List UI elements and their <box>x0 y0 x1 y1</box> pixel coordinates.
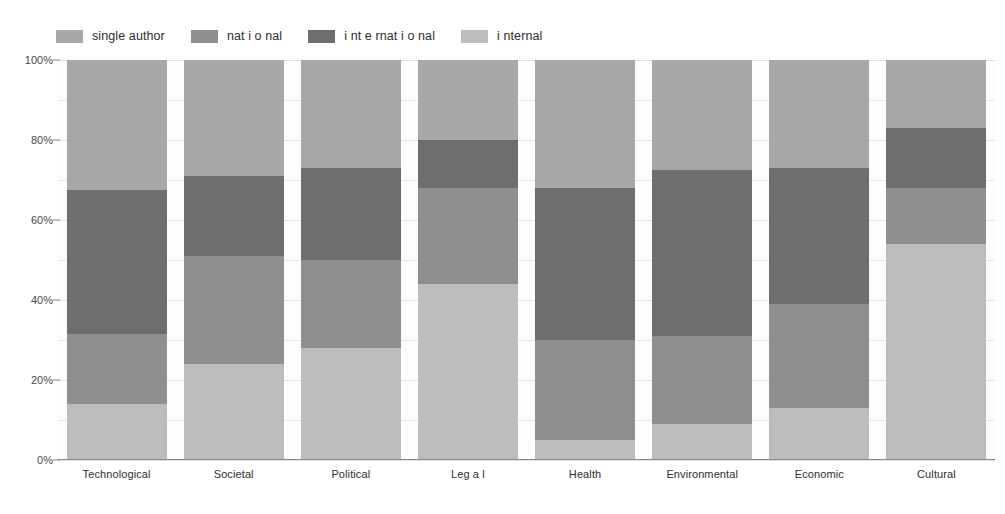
bar-segment-national[interactable] <box>418 188 518 284</box>
bar-segment-international[interactable] <box>769 168 869 304</box>
bar-segment-international[interactable] <box>301 168 401 260</box>
legend-item-international[interactable]: i nt e rnat i o nal <box>308 29 435 43</box>
bar-segment-single_author[interactable] <box>652 60 752 170</box>
bar-segment-national[interactable] <box>535 340 635 440</box>
bar-economic[interactable] <box>769 60 869 460</box>
legend-swatch-internal <box>461 30 488 43</box>
legend-item-internal[interactable]: i nternal <box>461 29 542 43</box>
legend-swatch-national <box>191 30 218 43</box>
y-tick-label-100pct: 100% <box>9 54 53 66</box>
x-axis-line <box>58 459 995 460</box>
bar-segment-single_author[interactable] <box>535 60 635 188</box>
bar-segment-internal[interactable] <box>418 284 518 460</box>
bar-segment-international[interactable] <box>652 170 752 336</box>
x-tick-label-political: Political <box>292 468 409 480</box>
stacked-bar-chart: single authornat i o nali nt e rnat i o … <box>0 0 1005 514</box>
y-tick-label-0pct: 0% <box>9 454 53 466</box>
y-tick-mark-0 <box>53 460 60 461</box>
bar-segment-national[interactable] <box>652 336 752 424</box>
y-tick-label-40pct: 40% <box>9 294 53 306</box>
x-tick-label-societal: Societal <box>175 468 292 480</box>
gridline-0 <box>58 460 995 461</box>
bar-segment-single_author[interactable] <box>418 60 518 140</box>
bar-segment-single_author[interactable] <box>67 60 167 190</box>
plot-area <box>58 60 995 460</box>
y-tick-label-20pct: 20% <box>9 374 53 386</box>
bar-segment-internal[interactable] <box>67 404 167 460</box>
bar-segment-internal[interactable] <box>886 244 986 460</box>
bar-segment-internal[interactable] <box>652 424 752 460</box>
legend-item-national[interactable]: nat i o nal <box>191 29 282 43</box>
legend-label-single_author: single author <box>92 29 165 43</box>
bar-segment-single_author[interactable] <box>886 60 986 128</box>
bar-segment-internal[interactable] <box>769 408 869 460</box>
bar-segment-national[interactable] <box>886 188 986 244</box>
bar-political[interactable] <box>301 60 401 460</box>
y-tick-mark-20 <box>53 380 60 381</box>
bar-segment-single_author[interactable] <box>769 60 869 168</box>
bar-segment-international[interactable] <box>535 188 635 340</box>
bar-health[interactable] <box>535 60 635 460</box>
legend-label-internal: i nternal <box>497 29 542 43</box>
legend-item-single_author[interactable]: single author <box>56 29 165 43</box>
bar-segment-internal[interactable] <box>535 440 635 460</box>
y-tick-mark-60 <box>53 220 60 221</box>
bar-cultural[interactable] <box>886 60 986 460</box>
bar-segment-internal[interactable] <box>184 364 284 460</box>
bar-segment-national[interactable] <box>301 260 401 348</box>
x-tick-label-leg-a-l: Leg a l <box>409 468 526 480</box>
bar-segment-national[interactable] <box>769 304 869 408</box>
legend-swatch-international <box>308 30 335 43</box>
bar-environmental[interactable] <box>652 60 752 460</box>
legend-label-national: nat i o nal <box>227 29 282 43</box>
legend-swatch-single_author <box>56 30 83 43</box>
bar-segment-internal[interactable] <box>301 348 401 460</box>
bar-leg-a-l[interactable] <box>418 60 518 460</box>
bar-segment-international[interactable] <box>184 176 284 256</box>
x-tick-label-environmental: Environmental <box>644 468 761 480</box>
x-tick-label-cultural: Cultural <box>878 468 995 480</box>
y-tick-mark-100 <box>53 60 60 61</box>
y-tick-mark-40 <box>53 300 60 301</box>
y-tick-mark-80 <box>53 140 60 141</box>
bar-segment-national[interactable] <box>67 334 167 404</box>
x-tick-label-technological: Technological <box>58 468 175 480</box>
x-tick-label-health: Health <box>527 468 644 480</box>
legend-label-international: i nt e rnat i o nal <box>344 29 435 43</box>
y-tick-label-80pct: 80% <box>9 134 53 146</box>
y-tick-label-60pct: 60% <box>9 214 53 226</box>
bar-segment-international[interactable] <box>418 140 518 188</box>
bar-societal[interactable] <box>184 60 284 460</box>
x-tick-label-economic: Economic <box>761 468 878 480</box>
bar-segment-international[interactable] <box>67 190 167 334</box>
bar-segment-national[interactable] <box>184 256 284 364</box>
bar-segment-single_author[interactable] <box>184 60 284 176</box>
chart-legend: single authornat i o nali nt e rnat i o … <box>56 26 568 46</box>
bar-segment-single_author[interactable] <box>301 60 401 168</box>
bar-segment-international[interactable] <box>886 128 986 188</box>
bar-technological[interactable] <box>67 60 167 460</box>
